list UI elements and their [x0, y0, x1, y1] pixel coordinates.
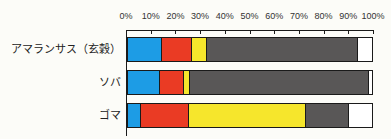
x-axis-tick-mark	[151, 30, 152, 34]
x-axis-tick-mark	[200, 30, 201, 34]
bar-gray-segment	[189, 71, 368, 94]
x-axis-tick-mark	[274, 30, 275, 34]
bar-yellow-segment	[188, 104, 305, 127]
bar-white-segment	[348, 104, 372, 127]
bar-red-segment	[159, 71, 183, 94]
x-axis-tick-mark	[250, 30, 251, 34]
bar-gray-segment	[305, 104, 348, 127]
x-axis-tick-label: 40%	[216, 11, 234, 21]
x-axis-tick-label: 60%	[265, 11, 283, 21]
bar-label: ゴマ	[0, 103, 121, 128]
bar-red-segment	[140, 104, 188, 127]
bar-row	[127, 103, 373, 128]
bar-blue-segment	[128, 104, 140, 127]
bar-row	[127, 37, 373, 62]
x-axis-tick-mark	[225, 30, 226, 34]
x-axis-tick-label: 50%	[240, 11, 258, 21]
bar-yellow-segment	[191, 38, 206, 61]
x-axis-tick-label: 80%	[315, 11, 333, 21]
bar-row	[127, 70, 373, 95]
x-axis-tick-label: 70%	[290, 11, 308, 21]
x-axis-tick-label: 10%	[142, 11, 160, 21]
x-axis-tick-label: 0%	[119, 11, 132, 21]
x-axis-tick-label: 30%	[191, 11, 209, 21]
bar-white-segment	[357, 38, 372, 61]
bar-blue-segment	[128, 71, 159, 94]
x-axis-tick-mark	[324, 30, 325, 34]
x-axis-tick-mark	[126, 30, 127, 34]
x-axis-tick-mark	[348, 30, 349, 34]
bar-blue-segment	[128, 38, 161, 61]
bar-gray-segment	[206, 38, 357, 61]
bar-red-segment	[161, 38, 192, 61]
x-axis-tick-mark	[299, 30, 300, 34]
x-axis-tick-label: 90%	[339, 11, 357, 21]
x-axis-tick-mark	[373, 30, 374, 34]
x-axis-tick-label: 20%	[166, 11, 184, 21]
bar-label: ソバ	[0, 70, 121, 95]
stacked-bar-chart: 0%10%20%30%40%50%60%70%80%90%100% アマランサス…	[0, 0, 391, 139]
x-axis-tick-mark	[175, 30, 176, 34]
x-axis-tick-label: 100%	[361, 11, 384, 21]
bar-label: アマランサス（玄穀）	[0, 37, 121, 62]
bar-white-segment	[368, 71, 372, 94]
